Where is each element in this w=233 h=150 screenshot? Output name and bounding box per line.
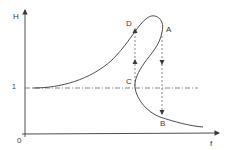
arrow-down-icon	[160, 110, 165, 115]
point-label-a: A	[166, 26, 171, 34]
point-label-c: C	[126, 78, 132, 86]
arrow-down-icon	[160, 60, 165, 65]
x-axis-label: f	[210, 140, 212, 148]
diagram-canvas	[0, 0, 233, 150]
response-curve	[33, 16, 203, 127]
arrow-up-icon	[133, 59, 138, 64]
x-axis	[22, 133, 219, 134]
point-label-b: B	[160, 120, 165, 128]
point-label-d: D	[126, 20, 132, 28]
reference-level-label: 1	[12, 83, 16, 90]
y-axis-label: H	[13, 13, 19, 21]
origin-label: 0	[17, 137, 21, 145]
